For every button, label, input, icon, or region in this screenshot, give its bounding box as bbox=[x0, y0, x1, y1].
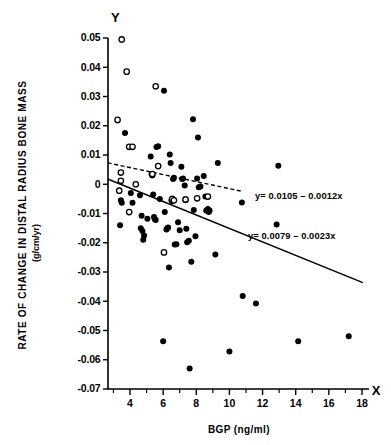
data-point-filled bbox=[168, 160, 174, 166]
regression-lines bbox=[108, 163, 363, 283]
data-point-open bbox=[133, 182, 138, 187]
data-point-filled bbox=[157, 196, 163, 202]
data-point-filled bbox=[153, 217, 159, 223]
y-tick-label: -0.04 bbox=[78, 295, 101, 307]
data-point-open bbox=[171, 198, 176, 203]
y-tick-label: -0.07 bbox=[78, 382, 101, 394]
y-axis-title: RATE OF CHANGE IN DISTAL RADIUS BONE MAS… bbox=[17, 80, 28, 349]
y-tick-label: 0.04 bbox=[81, 61, 101, 73]
data-point-filled bbox=[190, 116, 196, 122]
data-point-filled bbox=[119, 200, 125, 206]
data-point-filled bbox=[117, 222, 123, 228]
data-point-filled bbox=[160, 338, 166, 344]
data-point-filled bbox=[212, 251, 218, 257]
data-point-filled bbox=[141, 232, 147, 238]
data-point-filled bbox=[240, 293, 246, 299]
x-tick-label: 18 bbox=[356, 397, 368, 409]
data-point-filled bbox=[137, 192, 143, 198]
data-point-filled bbox=[188, 259, 194, 265]
x-tick-label: 8 bbox=[193, 397, 199, 409]
data-point-filled bbox=[129, 200, 135, 206]
data-point-filled bbox=[180, 175, 186, 181]
data-point-filled bbox=[207, 208, 213, 214]
y-tick-label: -0.06 bbox=[78, 353, 101, 365]
data-point-filled bbox=[161, 88, 167, 94]
data-point-open bbox=[153, 84, 158, 89]
data-point-filled bbox=[150, 191, 156, 197]
data-point-filled bbox=[295, 338, 301, 344]
data-point-filled bbox=[197, 184, 203, 190]
data-point-open bbox=[183, 197, 188, 202]
data-point-filled bbox=[192, 233, 198, 239]
x-axis-letter: X bbox=[372, 383, 381, 398]
y-tick-label: 0.01 bbox=[81, 148, 101, 160]
data-point-open bbox=[117, 188, 122, 193]
y-tick-label: 0.05 bbox=[81, 31, 101, 43]
plot-canvas: 0.050.040.030.020.010-0.01-0.02-0.03-0.0… bbox=[0, 0, 391, 445]
solid-regression-equation: y= 0.0079 – 0.0023x bbox=[248, 231, 336, 241]
data-point-filled bbox=[275, 163, 281, 169]
y-tick-label: -0.01 bbox=[78, 207, 101, 219]
x-axis-title: BGP (ng/ml) bbox=[208, 424, 270, 435]
x-tick-label: 12 bbox=[257, 397, 269, 409]
data-point-filled bbox=[187, 366, 193, 372]
x-tick-label: 16 bbox=[323, 397, 335, 409]
y-tick-label: -0.05 bbox=[78, 324, 101, 336]
data-point-open bbox=[155, 163, 160, 168]
data-point-filled bbox=[144, 216, 150, 222]
data-point-filled bbox=[155, 143, 161, 149]
data-point-filled bbox=[194, 175, 200, 181]
dashed-regression-equation: y= 0.0105 – 0.0012x bbox=[255, 191, 343, 201]
y-tick-label: -0.03 bbox=[78, 265, 101, 277]
data-point-filled bbox=[195, 134, 201, 140]
data-point-open bbox=[124, 69, 129, 74]
y-tick-label: 0 bbox=[95, 178, 101, 190]
data-point-open bbox=[205, 194, 210, 199]
data-point-open bbox=[161, 250, 166, 255]
data-points bbox=[115, 37, 352, 372]
data-point-filled bbox=[201, 173, 207, 179]
data-point-open bbox=[118, 170, 123, 175]
data-point-filled bbox=[186, 238, 192, 244]
data-point-filled bbox=[139, 213, 145, 219]
data-point-filled bbox=[215, 160, 221, 166]
axes: 0.050.040.030.020.010-0.01-0.02-0.03-0.0… bbox=[78, 31, 369, 408]
data-point-filled bbox=[239, 199, 245, 205]
data-point-filled bbox=[166, 265, 172, 271]
data-point-filled bbox=[148, 153, 154, 159]
scatter-plot-figure: 0.050.040.030.020.010-0.01-0.02-0.03-0.0… bbox=[0, 0, 391, 445]
data-point-open bbox=[118, 178, 123, 183]
data-point-filled bbox=[346, 333, 352, 339]
data-point-open bbox=[194, 196, 199, 201]
data-point-filled bbox=[191, 207, 197, 213]
x-tick-label: 14 bbox=[290, 397, 302, 409]
y-axis-units: (g/cm/yr) bbox=[31, 224, 41, 262]
data-point-filled bbox=[171, 175, 177, 181]
x-tick-label: 10 bbox=[224, 397, 236, 409]
chart-labels: YXBGP (ng/ml)RATE OF CHANGE IN DISTAL RA… bbox=[17, 10, 381, 435]
axis-lines bbox=[108, 38, 369, 389]
data-point-filled bbox=[175, 219, 181, 225]
data-point-open bbox=[150, 171, 155, 176]
data-point-filled bbox=[173, 241, 179, 247]
data-point-filled bbox=[122, 130, 128, 136]
data-point-filled bbox=[167, 151, 173, 157]
x-tick-label: 4 bbox=[127, 397, 133, 409]
data-point-filled bbox=[182, 182, 188, 188]
data-point-open bbox=[126, 209, 131, 214]
y-tick-label: 0.03 bbox=[81, 90, 101, 102]
data-point-filled bbox=[128, 190, 134, 196]
data-point-filled bbox=[165, 225, 171, 231]
data-point-filled bbox=[253, 301, 259, 307]
data-point-filled bbox=[226, 349, 232, 355]
data-point-open bbox=[119, 37, 124, 42]
y-axis-letter: Y bbox=[111, 10, 120, 25]
y-tick-label: 0.02 bbox=[81, 119, 101, 131]
data-point-filled bbox=[183, 226, 189, 232]
data-point-filled bbox=[162, 209, 168, 215]
y-tick-label: -0.02 bbox=[78, 236, 101, 248]
data-point-open bbox=[130, 144, 135, 149]
data-point-filled bbox=[177, 227, 183, 233]
data-point-open bbox=[115, 117, 120, 122]
x-tick-label: 6 bbox=[160, 397, 166, 409]
